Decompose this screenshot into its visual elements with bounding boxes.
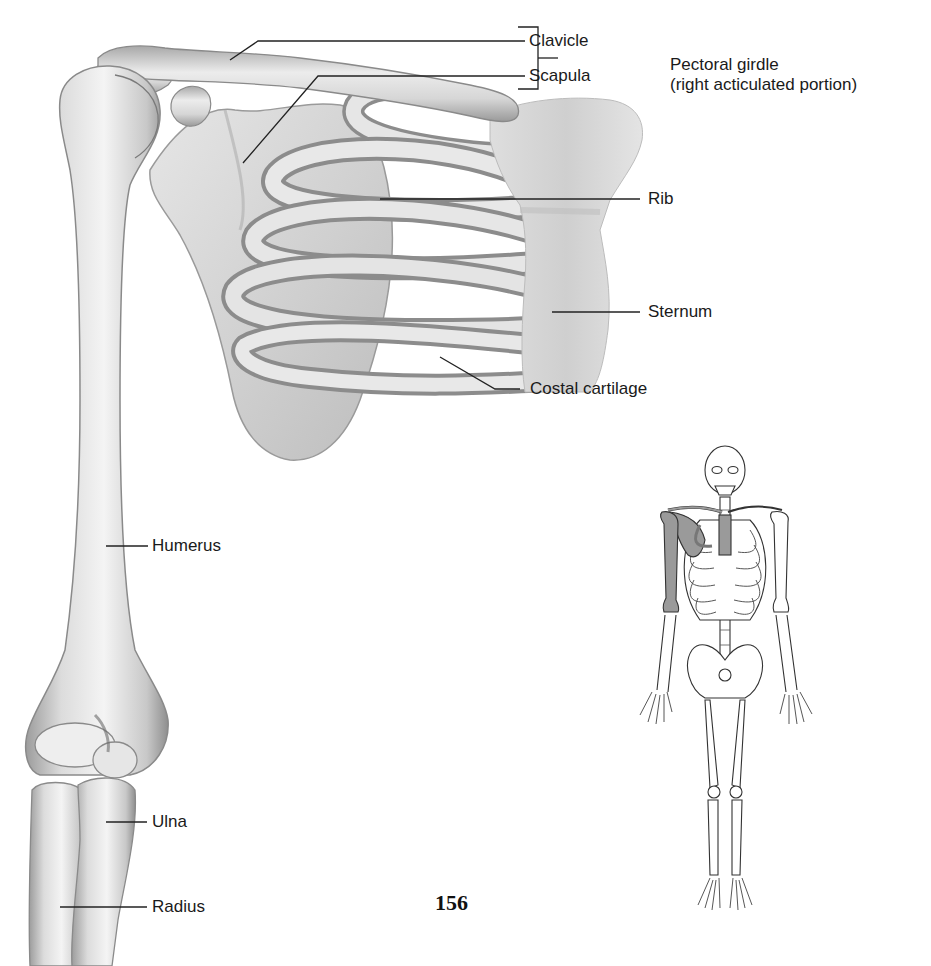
- label-clavicle: Clavicle: [529, 31, 589, 51]
- label-sternum: Sternum: [648, 302, 712, 322]
- label-rib: Rib: [648, 189, 674, 209]
- anatomy-illustration: [0, 0, 931, 966]
- forearm-bones: [29, 778, 135, 966]
- label-humerus: Humerus: [152, 536, 221, 556]
- humerus-bone: [26, 66, 168, 778]
- label-costal-cartilage: Costal cartilage: [530, 379, 647, 399]
- label-radius: Radius: [152, 897, 205, 917]
- label-ulna: Ulna: [152, 812, 187, 832]
- label-pectoral-girdle-detail: (right acticulated portion): [670, 75, 857, 95]
- label-pectoral-girdle: Pectoral girdle: [670, 55, 779, 75]
- label-scapula: Scapula: [529, 66, 590, 86]
- locator-skeleton: [640, 446, 812, 910]
- page-number: 156: [435, 890, 468, 916]
